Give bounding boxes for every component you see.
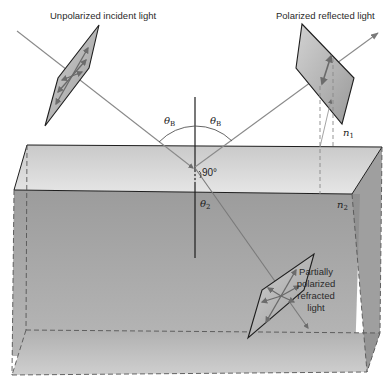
reflected-light-label: Polarized reflected light — [276, 10, 375, 21]
box-top-surface — [14, 145, 382, 194]
theta-b-left-label: θB — [164, 115, 175, 128]
refracted-label-line-2: polarized — [297, 278, 336, 289]
incident-light-label: Unpolarized incident light — [50, 10, 157, 21]
brewster-angle-diagram: Unpolarized incident light Polarized ref… — [0, 0, 390, 390]
theta-b-arc-right — [195, 126, 232, 141]
box-bottom-face — [12, 330, 380, 375]
refracted-label-line-3: refracted — [297, 290, 335, 301]
projection-arrow — [320, 100, 331, 147]
theta-b-right-label: θB — [210, 115, 221, 128]
diagram-canvas: Unpolarized incident light Polarized ref… — [0, 0, 390, 390]
refracted-label-line-1: Partially — [299, 266, 333, 277]
n1-label: n1 — [343, 127, 354, 140]
theta-b-arc-left — [159, 126, 195, 142]
medium-box — [12, 145, 382, 375]
incident-polarization-plate — [45, 25, 99, 126]
refracted-label-line-4: light — [307, 302, 325, 313]
right-angle-label: 90° — [202, 167, 217, 178]
